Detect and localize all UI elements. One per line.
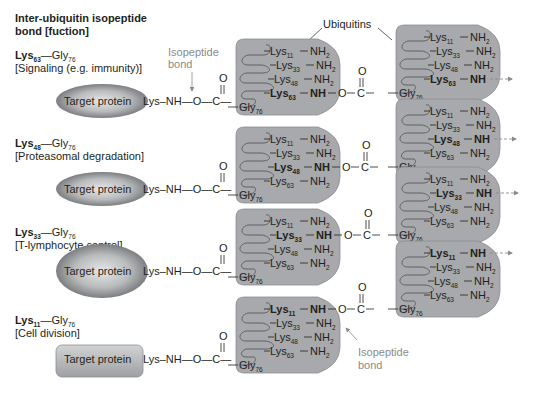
residue-nh-48: NH [474, 133, 490, 145]
residue-lys-48-sub: 48 [451, 282, 459, 289]
residue-lys-48-sub: 48 [291, 80, 299, 87]
carbonyl-group: O [219, 242, 228, 264]
gly76-label-main: Gly [239, 189, 256, 201]
residue-lys-11-main: Lys [430, 31, 447, 43]
linker-oxygen: O [342, 161, 351, 173]
residue-lys-33-sub: 33 [453, 126, 461, 133]
carbonyl-oxygen: O [219, 160, 228, 172]
carbonyl-group-2: O [364, 207, 373, 229]
carbonyl-oxygen: O [219, 72, 228, 84]
residue-lys-33-main: Lys [436, 261, 453, 273]
residue-nh2-63-sub: 2 [486, 154, 490, 161]
gly76-label-main: Gly [239, 271, 256, 283]
residue-lys-48-sub: 48 [293, 168, 301, 175]
ubiquitin-distal: Lys11NH2Lys33NH2Lys48NH2Lys63NHGly76 [388, 25, 500, 101]
residue-lys-11-sub: 11 [289, 310, 296, 317]
function-label: [Signaling (e.g. immunity)] [15, 62, 142, 74]
ubiquitin-distal: Lys11NH2Lys33NHLys48NH2Lys63NH2Gly76 [388, 167, 500, 243]
lys-nh-o-c-linker: Lys–NH—O—C— [143, 353, 231, 365]
isopeptide-arrow-bottom [346, 328, 357, 340]
residue-nh2-63-sub: 2 [486, 222, 490, 229]
residue-lys-48-main: Lys [434, 201, 451, 213]
residue-nh-11: NH [470, 247, 486, 259]
residue-nh2-48-sub: 2 [330, 338, 334, 345]
residue-nh2-48-main: NH [474, 59, 490, 71]
residue-lys-63-main: Lys [270, 257, 287, 269]
carbonyl-group-2: O [358, 65, 367, 87]
residue-nh-63: NH [310, 87, 326, 99]
gly76-label-main: Gly [399, 87, 416, 99]
residue-lys-33-main: Lys [436, 187, 455, 199]
residue-lys-33-sub: 33 [293, 324, 301, 331]
gly76-label-main: Gly [399, 229, 416, 241]
residue-lys-63-sub: 63 [287, 352, 295, 359]
residue-lys-11-sub: 11 [447, 180, 454, 187]
residue-nh2-33-sub: 2 [332, 66, 336, 73]
residue-nh2-63-main: NH [310, 175, 326, 187]
carbonyl-oxygen: O [358, 281, 367, 293]
residue-lys-63-sub: 63 [449, 80, 457, 87]
linkage-gly: —Gly [41, 137, 69, 149]
residue-lys-11-sub: 11 [287, 140, 294, 147]
residue-lys-63-main: Lys [430, 289, 447, 301]
isopeptide-label-top-2: bond [168, 58, 192, 70]
linker-oxygen: O [344, 229, 353, 241]
residue-nh2-11-main: NH [470, 105, 486, 117]
residue-lys-48-sub: 48 [291, 338, 299, 345]
residue-lys-11-main: Lys [430, 105, 447, 117]
ubiquitin-proximal: Lys11NH2Lys33NHLys48NH2Lys63NH2Gly76 [228, 209, 340, 285]
residue-lys-33-sub: 33 [295, 236, 303, 243]
ubiquitin-proximal: Lys11NH2Lys33NH2Lys48NHLys63NH2Gly76 [228, 127, 340, 203]
residue-lys-11-main: Lys [430, 173, 447, 185]
ubiquitins-pointer-right [378, 28, 392, 40]
residue-lys-63-main: Lys [270, 345, 287, 357]
residue-nh2-63-sub: 2 [326, 352, 330, 359]
residue-nh2-33-sub: 2 [492, 268, 496, 275]
linkage-gly: —Gly [40, 314, 68, 326]
residue-nh2-63-sub: 2 [486, 296, 490, 303]
carbonyl-oxygen: O [358, 65, 367, 77]
target-protein-label: Target protein [64, 183, 131, 195]
gly76-label-sub: 76 [256, 108, 264, 115]
residue-nh-33: NH [476, 187, 492, 199]
gly76-label-main: Gly [239, 101, 256, 113]
residue-nh2-48-sub: 2 [490, 282, 494, 289]
target-protein-label: Target protein [64, 353, 131, 365]
gly76-label-main: Gly [239, 359, 256, 371]
residue-lys-11-sub: 11 [287, 222, 294, 229]
residue-lys-63-sub: 63 [447, 296, 455, 303]
residue-nh2-63-main: NH [470, 289, 486, 301]
ubiquitin-proximal: Lys11NH2Lys33NH2Lys48NH2Lys63NHGly76 [228, 39, 340, 115]
residue-nh2-11-main: NH [310, 215, 326, 227]
linker-oxygen: O [338, 303, 347, 315]
residue-lys-11-main: Lys [270, 133, 287, 145]
linkage-gly: —Gly [41, 226, 69, 238]
residue-nh2-11-sub: 2 [326, 52, 330, 59]
residue-nh2-48-main: NH [314, 73, 330, 85]
residue-nh2-48-main: NH [474, 275, 490, 287]
residue-nh2-33-main: NH [476, 45, 492, 57]
residue-lys-48-main: Lys [434, 275, 451, 287]
residue-lys-33-main: Lys [276, 229, 295, 241]
target-protein-label: Target protein [64, 265, 131, 277]
linkage-lys: Lys [15, 314, 34, 326]
residue-nh-11: NH [310, 303, 326, 315]
residue-nh2-11-main: NH [310, 133, 326, 145]
residue-nh2-11-sub: 2 [326, 140, 330, 147]
residue-nh2-11-sub: 2 [486, 180, 490, 187]
residue-lys-48-main: Lys [274, 331, 291, 343]
residue-lys-11-sub: 11 [287, 52, 294, 59]
carbonyl-oxygen: O [364, 207, 373, 219]
residue-nh-63: NH [470, 73, 486, 85]
residue-nh2-33-sub: 2 [332, 324, 336, 331]
carbonyl-group-2: O [362, 139, 371, 161]
residue-lys-63-main: Lys [270, 87, 289, 99]
residue-lys-63-main: Lys [430, 73, 449, 85]
function-label: [Cell division] [15, 327, 80, 339]
residue-nh2-11-main: NH [470, 173, 486, 185]
residue-lys-63-main: Lys [270, 175, 287, 187]
residue-nh2-33-main: NH [316, 317, 332, 329]
lys-nh-o-c-linker: Lys–NH—O—C— [143, 183, 231, 195]
carbonyl-group-2: O [358, 281, 367, 303]
linker-carbon: C [361, 161, 369, 173]
